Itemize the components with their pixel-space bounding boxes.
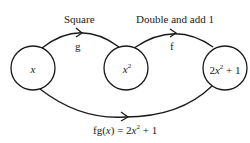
edge-f-name: f: [170, 41, 174, 52]
edge-f-arrowhead-icon: [170, 29, 176, 37]
node-x-label: x: [31, 63, 36, 75]
edge-fg-label-prefix: fg(: [93, 124, 106, 136]
node-output-rest: + 1: [223, 64, 240, 76]
edge-fg-arc: [40, 86, 212, 117]
edge-fg-label-suffix: + 1: [140, 124, 157, 136]
node-x-squared-label: x2: [123, 62, 131, 75]
edge-fg-label: fg(x) = 2x2 + 1: [93, 124, 157, 136]
node-output-label: 2x2 + 1: [209, 63, 240, 76]
edge-g-name: g: [75, 41, 81, 52]
edge-g-description: Square: [64, 14, 95, 25]
node-x-var: x: [31, 63, 36, 75]
edge-f-description: Double and add 1: [136, 14, 214, 25]
node-x-squared-power: 2: [128, 62, 132, 70]
edge-fg-label-mid: ) = 2: [111, 124, 132, 136]
composite-function-diagram: x x2 2x2 + 1 Square g Double and add 1 f…: [0, 0, 250, 143]
